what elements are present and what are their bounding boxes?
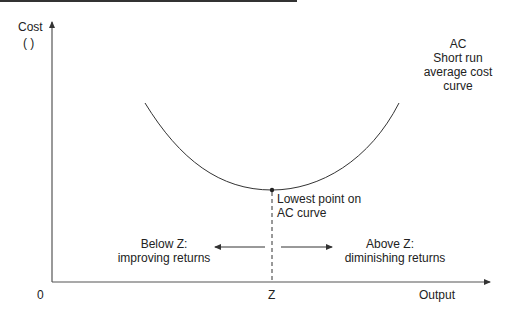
left-region-line2: improving returns <box>112 251 216 265</box>
right-region-line1: Above Z: <box>335 237 445 251</box>
curve-desc-line1: Short run <box>418 51 498 65</box>
ac-curve <box>145 103 399 190</box>
curve-desc-line3: curve <box>418 79 498 93</box>
z-label: Z <box>268 288 275 302</box>
x-axis-label: Output <box>419 288 455 302</box>
minimum-point-label-line1: Lowest point on <box>277 192 361 206</box>
y-axis-label: Cost <box>18 20 43 34</box>
origin-label: 0 <box>37 288 44 302</box>
curve-desc-line2: average cost <box>410 65 506 79</box>
minimum-point-label-line2: AC curve <box>277 206 326 220</box>
y-axis-unit: ( ) <box>23 36 34 50</box>
right-region-line2: diminishing returns <box>335 251 455 265</box>
curve-name-label: AC <box>418 37 498 51</box>
minimum-point-marker <box>270 188 274 192</box>
left-region-line1: Below Z: <box>118 237 210 251</box>
